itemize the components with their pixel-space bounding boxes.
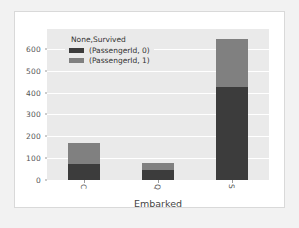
bar-S — [216, 39, 249, 180]
bar-segment — [68, 143, 101, 163]
plot-area: CQS Embarked None,Survived (PassengerId,… — [47, 29, 269, 180]
bar-segment — [216, 39, 249, 87]
y-tick-mark — [45, 70, 47, 71]
y-tick-label: 0 — [36, 176, 41, 185]
y-tick-label: 300 — [26, 110, 41, 119]
y-tick-mark — [45, 114, 47, 115]
legend-label-1: (PassengerId, 1) — [89, 56, 150, 65]
legend-swatch-1 — [69, 58, 84, 63]
bar-segment — [68, 164, 101, 180]
bar-Q — [142, 163, 175, 180]
x-tick-label: S — [227, 184, 236, 189]
bar-C — [68, 143, 101, 180]
x-tick-mark — [158, 180, 159, 183]
chart-figure: CQS Embarked None,Survived (PassengerId,… — [14, 11, 285, 208]
x-tick-label: Q — [153, 184, 162, 190]
y-tick-label: 600 — [26, 44, 41, 53]
x-tick-mark — [232, 180, 233, 183]
legend-item: (PassengerId, 0) — [69, 46, 150, 55]
legend-item: (PassengerId, 1) — [69, 56, 150, 65]
bar-segment — [142, 170, 175, 180]
y-tick-label: 200 — [26, 132, 41, 141]
y-tick-label: 500 — [26, 66, 41, 75]
x-tick-label: C — [79, 184, 88, 189]
legend-label-0: (PassengerId, 0) — [89, 46, 150, 55]
bar-segment — [142, 163, 175, 170]
y-tick-label: 400 — [26, 88, 41, 97]
y-tick-label: 100 — [26, 154, 41, 163]
y-tick-mark — [45, 48, 47, 49]
y-tick-mark — [45, 158, 47, 159]
screenshot-background: CQS Embarked None,Survived (PassengerId,… — [0, 0, 299, 228]
legend-swatch-0 — [69, 48, 84, 53]
x-tick-mark — [84, 180, 85, 183]
y-tick-mark — [45, 180, 47, 181]
legend-title: None,Survived — [71, 35, 150, 44]
bar-segment — [216, 87, 249, 180]
legend: None,Survived (PassengerId, 0) (Passenge… — [65, 33, 154, 69]
x-axis-label: Embarked — [47, 198, 269, 209]
y-tick-mark — [45, 136, 47, 137]
y-tick-mark — [45, 92, 47, 93]
